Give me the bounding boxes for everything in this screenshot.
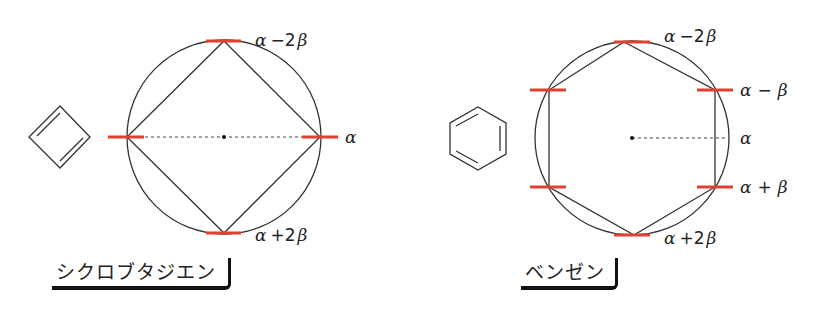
level-label: α−β [740,80,788,100]
cyclobutadiene-diagram: α−2β α α+2β [29,30,357,245]
cyclobutadiene-name-label: シクロブタジエン [52,258,231,290]
center-point [222,135,226,139]
cyclobutadiene-structure-icon [29,106,90,168]
level-label: α+β [740,177,788,197]
benzene-structure-icon [450,107,506,170]
benzene-diagram: α−2β α−β α α+β α+2β [450,26,788,248]
level-label: α [740,128,752,148]
benzene-name-label: ベンゼン [521,258,618,290]
level-label: α [345,127,357,147]
level-label: α−2β [664,26,717,46]
level-label: α−2β [255,30,308,50]
molecule-name: シクロブタジエン [56,261,216,283]
level-label: α+2β [664,228,717,248]
center-point [630,136,634,140]
molecule-name: ベンゼン [525,261,605,283]
level-label: α+2β [255,225,308,245]
